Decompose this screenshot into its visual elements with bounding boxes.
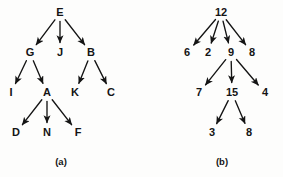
edges-layer xyxy=(16,19,259,124)
graph-node-n2: 2 xyxy=(205,46,211,58)
edge-n12-to-n8a xyxy=(226,20,245,45)
captions-layer: (a)(b) xyxy=(55,156,228,167)
graph-node-C: C xyxy=(107,86,115,98)
edge-E-to-B xyxy=(65,20,84,45)
graph-node-n9: 9 xyxy=(228,46,234,58)
edge-E-to-G xyxy=(36,20,55,45)
graph-node-D: D xyxy=(12,126,20,138)
caption-diagram-b: (b) xyxy=(216,156,228,167)
edge-n15-to-n8b xyxy=(235,101,245,124)
graph-node-J: J xyxy=(57,46,63,58)
graph-node-K: K xyxy=(71,86,79,98)
edge-G-to-A xyxy=(33,61,43,84)
figure-container: EGJBIAKCDNF126298715438 (a)(b) xyxy=(0,0,283,177)
graph-node-B: B xyxy=(87,46,95,58)
graph-node-n8a: 8 xyxy=(249,46,255,58)
edge-n12-to-n9 xyxy=(223,21,228,43)
edge-n9-to-n15 xyxy=(231,62,232,83)
graph-node-n8b: 8 xyxy=(246,126,252,138)
edge-n15-to-n3 xyxy=(217,101,229,124)
edge-A-to-F xyxy=(52,100,71,125)
edge-B-to-K xyxy=(79,61,88,83)
graph-node-n6: 6 xyxy=(184,46,190,58)
graph-node-n3: 3 xyxy=(209,126,215,138)
graph-node-n12: 12 xyxy=(215,6,227,18)
graph-node-n7: 7 xyxy=(196,86,202,98)
edge-B-to-C xyxy=(95,61,107,84)
edge-n9-to-n7 xyxy=(206,60,226,85)
graph-node-E: E xyxy=(56,6,63,18)
edge-G-to-I xyxy=(16,61,27,84)
graph-node-n4: 4 xyxy=(262,86,269,98)
edge-n9-to-n4 xyxy=(237,59,259,85)
graph-node-I: I xyxy=(9,86,12,98)
caption-diagram-a: (a) xyxy=(55,156,67,167)
graph-node-A: A xyxy=(43,86,51,98)
directed-graph-figure: EGJBIAKCDNF126298715438 (a)(b) xyxy=(0,0,283,177)
graph-node-F: F xyxy=(75,126,82,138)
graph-node-N: N xyxy=(43,126,51,138)
graph-node-n15: 15 xyxy=(226,86,238,98)
edge-A-to-D xyxy=(22,100,41,125)
edge-n12-to-n2 xyxy=(211,21,218,43)
graph-node-G: G xyxy=(26,46,35,58)
